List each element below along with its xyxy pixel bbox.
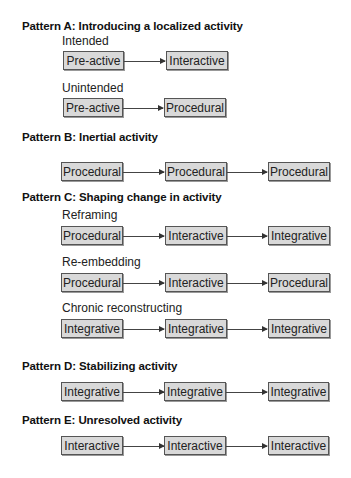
- pattern-c-reembedding-step-2: Interactive: [165, 273, 227, 292]
- arrow-icon: [123, 172, 164, 173]
- pattern-a-intended-step-1: Pre-active: [63, 51, 124, 70]
- pattern-c-reembedding-step-3: Procedural: [268, 273, 330, 292]
- pattern-a-unintended-label: Unintended: [62, 81, 123, 95]
- pattern-c-chronic-step-1: Integrative: [61, 319, 123, 338]
- arrow-icon: [226, 446, 267, 447]
- pattern-c-chronic-step-3: Integrative: [268, 319, 330, 338]
- pattern-c-chronic-label: Chronic reconstructing: [62, 301, 182, 315]
- pattern-a-intended-label: Intended: [62, 34, 109, 48]
- pattern-d-step-3: Integrative: [268, 382, 329, 401]
- pattern-d-step-1: Integrative: [61, 382, 123, 401]
- pattern-a-intended-step-2: Interactive: [166, 51, 228, 70]
- pattern-e-step-1: Interactive: [61, 436, 123, 455]
- pattern-c-reframing-step-1: Procedural: [61, 226, 123, 245]
- arrow-icon: [124, 61, 165, 62]
- pattern-b-title: Pattern B: Inertial activity: [22, 131, 158, 143]
- pattern-c-chronic-step-2: Integrative: [165, 319, 227, 338]
- arrow-icon: [123, 108, 163, 109]
- pattern-b-step-1: Procedural: [61, 162, 123, 181]
- pattern-c-reframing-label: Reframing: [62, 208, 117, 222]
- pattern-c-reframing-step-2: Interactive: [165, 226, 227, 245]
- arrow-icon: [123, 283, 164, 284]
- pattern-c-title: Pattern C: Shaping change in activity: [22, 191, 222, 203]
- pattern-d-step-2: Integrative: [164, 382, 226, 401]
- arrow-icon: [227, 329, 267, 330]
- arrow-icon: [226, 392, 267, 393]
- pattern-e-step-2: Interactive: [164, 436, 226, 455]
- pattern-d-title: Pattern D: Stabilizing activity: [22, 360, 177, 372]
- pattern-b-step-2: Procedural: [165, 162, 227, 181]
- arrow-icon: [227, 172, 267, 173]
- arrow-icon: [123, 236, 164, 237]
- pattern-a-unintended-step-2: Procedural: [164, 98, 226, 117]
- arrow-icon: [227, 236, 267, 237]
- pattern-b-step-3: Procedural: [268, 162, 330, 181]
- arrow-icon: [123, 329, 164, 330]
- pattern-c-reembedding-label: Re-embedding: [62, 255, 141, 269]
- arrow-icon: [227, 283, 267, 284]
- arrow-icon: [123, 392, 164, 393]
- pattern-e-step-3: Interactive: [268, 436, 329, 455]
- pattern-a-unintended-step-1: Pre-active: [63, 98, 123, 117]
- pattern-c-reframing-step-3: Integrative: [268, 226, 330, 245]
- pattern-a-title: Pattern A: Introducing a localized activ…: [22, 20, 243, 32]
- pattern-e-title: Pattern E: Unresolved activity: [22, 414, 182, 426]
- arrow-icon: [123, 446, 164, 447]
- pattern-c-reembedding-step-1: Procedural: [61, 273, 123, 292]
